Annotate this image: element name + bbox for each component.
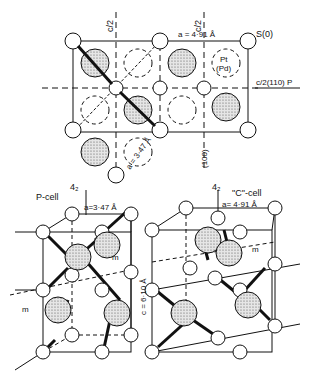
crystal-structure-diagram: c/2 c/2 a = 4·91 Å S(0) Pt (Pd) c/2(110)… — [0, 0, 314, 381]
svg-text:P-cell: P-cell — [36, 192, 59, 202]
svg-text:(Pd): (Pd) — [216, 64, 231, 73]
svg-text:m: m — [252, 245, 259, 254]
svg-text:4₂: 4₂ — [70, 182, 79, 192]
svg-text:a = 4·91 Å: a = 4·91 Å — [178, 30, 216, 39]
svg-text:c/2: c/2 — [105, 20, 115, 32]
svg-text:a= 4·91 Å: a= 4·91 Å — [222, 200, 258, 209]
c-cell-diagram — [145, 190, 300, 359]
p-cell-diagram — [10, 190, 138, 370]
svg-text:m: m — [112, 253, 119, 262]
svg-text:S(0): S(0) — [256, 29, 273, 39]
svg-text:4₂: 4₂ — [212, 182, 221, 192]
svg-text:Pt: Pt — [220, 55, 228, 64]
svg-text:c/2(110) P: c/2(110) P — [256, 78, 292, 87]
svg-text:"C"-cell: "C"-cell — [232, 188, 261, 198]
svg-text:c = 6·10 Å: c = 6·10 Å — [139, 278, 148, 315]
top-view-labels: c/2 c/2 a = 4·91 Å S(0) Pt (Pd) c/2(110)… — [105, 20, 292, 171]
svg-text:(100): (100) — [200, 149, 209, 168]
svg-text:a=3·47 Å: a=3·47 Å — [84, 203, 117, 212]
svg-text:m: m — [22, 305, 29, 314]
